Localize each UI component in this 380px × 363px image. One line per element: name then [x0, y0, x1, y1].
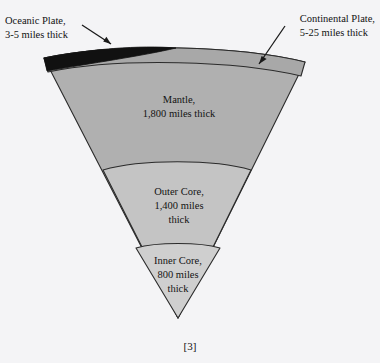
earth-layers-diagram: [0, 0, 380, 363]
label-mantle-line1: Mantle,: [143, 93, 216, 107]
label-mantle: Mantle, 1,800 miles thick: [143, 93, 216, 121]
callout-oceanic-line1: Oceanic Plate,: [5, 14, 68, 28]
label-inner-core: Inner Core, 800 miles thick: [154, 254, 202, 296]
label-inner-core-line1: Inner Core,: [154, 254, 202, 268]
label-outer-core: Outer Core, 1,400 miles thick: [154, 185, 204, 227]
label-outer-core-line1: Outer Core,: [154, 185, 204, 199]
label-inner-core-line3: thick: [154, 282, 202, 296]
callout-oceanic-line2: 3-5 miles thick: [5, 28, 68, 42]
callout-continental-line2: 5-25 miles thick: [300, 26, 375, 40]
label-inner-core-line2: 800 miles: [154, 268, 202, 282]
callout-continental-line1: Continental Plate,: [300, 12, 375, 26]
callout-oceanic-plate: Oceanic Plate, 3-5 miles thick: [5, 14, 68, 42]
label-outer-core-line2: 1,400 miles: [154, 199, 204, 213]
oceanic-plate-arrow: [82, 25, 111, 44]
label-outer-core-line3: thick: [154, 213, 204, 227]
figure-citation: [3]: [0, 340, 380, 352]
label-mantle-line2: 1,800 miles thick: [143, 107, 216, 121]
callout-continental-plate: Continental Plate, 5-25 miles thick: [300, 12, 375, 40]
